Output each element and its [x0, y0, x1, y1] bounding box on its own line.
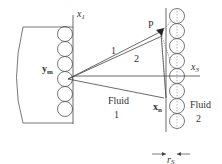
x3-label: x3 [190, 61, 199, 74]
fluid2-label-line1: Fluid [190, 99, 211, 110]
x1-label: x1 [76, 8, 85, 21]
p-label: P [148, 19, 154, 30]
fluid1-label-line1: Fluid [108, 95, 129, 106]
xn-label: xn [153, 101, 162, 114]
rs-arrowhead-right [177, 152, 181, 156]
ray-p-to-xn [161, 33, 166, 98]
rs-label: rS [167, 154, 175, 164]
point-p-marker [156, 28, 164, 36]
ym-label: ym [42, 63, 53, 76]
rs-arrowhead-left [162, 152, 166, 156]
fluid2-label-line2: 2 [196, 113, 201, 124]
path-2-label: 2 [134, 53, 139, 64]
fluid1-label-line2: 1 [114, 109, 119, 120]
ray-2 [68, 36, 162, 79]
path-1-label: 1 [111, 45, 116, 56]
panel-diagram: x1 x3 P ym xn 1 2 Fluid 1 Fluid 2 rS [0, 0, 222, 164]
left-particle-column [58, 27, 73, 117]
